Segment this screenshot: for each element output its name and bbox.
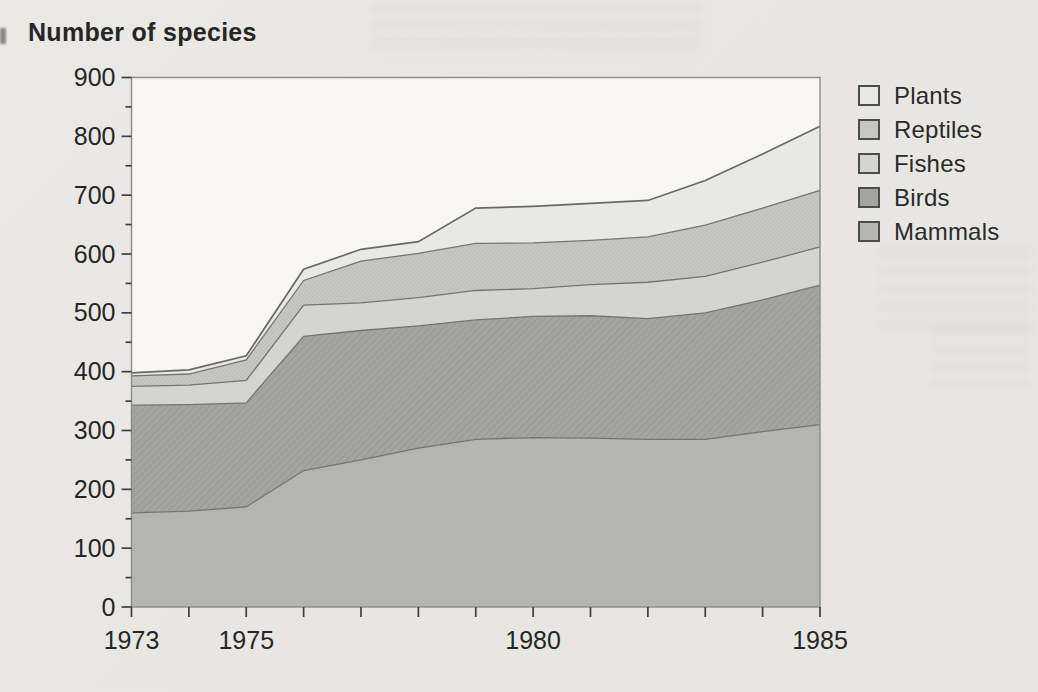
- legend-item-reptiles: Reptiles: [858, 118, 999, 141]
- y-axis-label-600: 600: [74, 240, 116, 268]
- legend-swatch-mammals: [858, 221, 880, 242]
- legend-swatch-fishes: [858, 153, 880, 174]
- legend-item-birds: Birds: [858, 186, 999, 209]
- y-axis-label-200: 200: [74, 475, 116, 503]
- chart-legend: Plants Reptiles Fishes Birds Mammals: [858, 84, 999, 243]
- legend-swatch-birds: [858, 187, 880, 208]
- legend-label-mammals: Mammals: [894, 218, 999, 246]
- x-axis-label-1975: 1975: [218, 626, 274, 654]
- y-axis-label-500: 500: [74, 298, 116, 326]
- legend-label-birds: Birds: [894, 184, 950, 212]
- x-axis-label-1985: 1985: [792, 626, 848, 654]
- legend-swatch-reptiles: [858, 119, 880, 140]
- legend-swatch-plants: [858, 85, 880, 106]
- legend-label-reptiles: Reptiles: [894, 116, 982, 144]
- legend-item-fishes: Fishes: [858, 152, 999, 175]
- legend-label-fishes: Fishes: [894, 150, 966, 178]
- legend-label-plants: Plants: [894, 82, 962, 110]
- y-axis-label-400: 400: [74, 357, 116, 385]
- legend-item-plants: Plants: [858, 84, 999, 107]
- y-axis-label-0: 0: [102, 593, 116, 621]
- y-axis-label-900: 900: [74, 63, 116, 91]
- y-axis-label-100: 100: [74, 534, 116, 562]
- y-axis-label-800: 800: [74, 122, 116, 150]
- x-axis-label-1980: 1980: [505, 626, 561, 654]
- y-axis-label-700: 700: [74, 181, 116, 209]
- scanned-chart-page: Number of species 0100200300400500600700…: [0, 0, 1038, 692]
- legend-item-mammals: Mammals: [858, 220, 999, 243]
- y-axis-label-300: 300: [74, 416, 116, 444]
- x-axis-label-1973: 1973: [104, 626, 160, 654]
